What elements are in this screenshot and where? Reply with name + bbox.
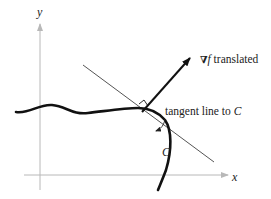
nabla-icon: ∇ [200,54,208,65]
curve-label: C [162,146,170,158]
tangent-line-label: tangent line to C [165,106,241,118]
gradient-vector-arrow [142,58,190,112]
curve-c [16,105,170,190]
diagram-canvas [0,0,271,199]
gradient-label: ∇f translated [200,54,258,66]
tangent-label-curve: C [234,105,242,117]
y-axis-label: y [37,6,42,18]
gradient-label-suffix: translated [211,53,259,65]
gradient-tangent-diagram: y x ∇f translated tangent line to C C [0,0,271,199]
tangent-label-text: tangent line to [165,105,234,117]
x-axis-label: x [232,171,237,183]
